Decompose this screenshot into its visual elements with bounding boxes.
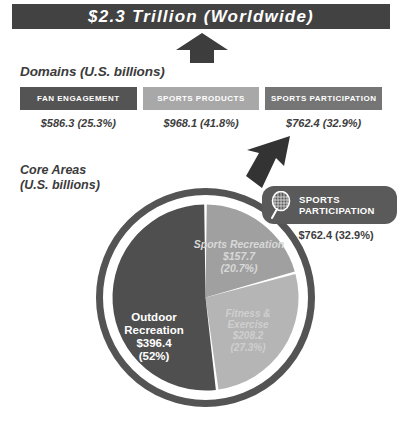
infographic-canvas: $2.3 Trillion (Worldwide) Domains (U.S. … [0,0,402,440]
domain-header: SPORTS PRODUCTS [143,87,260,110]
sports-participation-callout: SPORTS PARTICIPATION [262,186,397,224]
domains-table: FAN ENGAGEMENT $586.3 (25.3%) SPORTS PRO… [20,87,382,136]
core-areas-heading-line1: Core Areas [20,163,86,177]
core-areas-heading: Core Areas (U.S. billions) [20,163,100,193]
domains-heading: Domains (U.S. billions) [20,64,165,79]
callout-label: SPORTS PARTICIPATION [299,194,375,216]
domain-value: $762.4 (32.9%) [265,110,382,136]
headline-banner: $2.3 Trillion (Worldwide) [12,4,390,29]
tennis-racquet-icon [268,191,294,219]
domain-value: $586.3 (25.3%) [20,110,137,136]
callout-value: $762.4 (32.9%) [280,229,392,241]
domain-column-fan-engagement: FAN ENGAGEMENT $586.3 (25.3%) [20,87,137,136]
up-arrow-icon [176,33,228,63]
domain-header: FAN ENGAGEMENT [20,87,137,110]
domain-column-sports-products: SPORTS PRODUCTS $968.1 (41.8%) [143,87,260,136]
down-left-arrow-icon [228,136,290,188]
domain-header: SPORTS PARTICIPATION [265,87,382,110]
domain-column-sports-participation: SPORTS PARTICIPATION $762.4 (32.9%) [265,87,382,136]
domain-value: $968.1 (41.8%) [143,110,260,136]
callout-label-line2: PARTICIPATION [299,205,375,216]
pie-slice-group [112,205,298,391]
headline-text: $2.3 Trillion (Worldwide) [88,7,314,27]
core-areas-heading-line2: (U.S. billions) [20,178,100,192]
pie-slice [112,205,215,391]
callout-label-line1: SPORTS [299,194,340,205]
